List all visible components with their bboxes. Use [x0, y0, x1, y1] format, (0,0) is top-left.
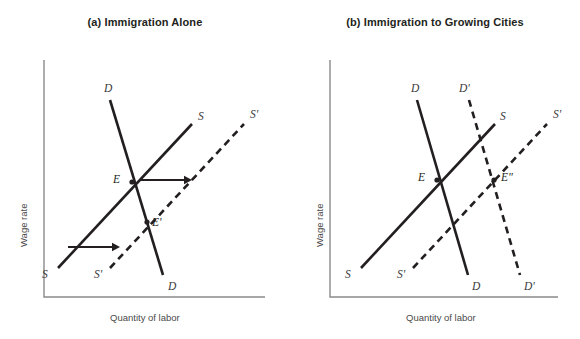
panel-b-x-axis-label: Quantity of labor — [406, 312, 476, 323]
panel-immigration-alone: (a) Immigration Alone DDSSS'S'EE' Wage r… — [0, 0, 290, 339]
equilibrium-dot-E — [434, 177, 439, 182]
panel-b-chart: DDD'D'SSS'S'EE" — [290, 0, 580, 339]
economics-figure: (a) Immigration Alone DDSSS'S'EE' Wage r… — [0, 0, 580, 339]
panel-immigration-growing-cities: (b) Immigration to Growing Cities DDD'D'… — [290, 0, 580, 339]
equilibrium-label-E: E — [417, 171, 425, 183]
curve-label-S-end: S — [500, 110, 506, 122]
curve-Sprime — [110, 124, 244, 268]
panel-a-x-axis-label: Quantity of labor — [110, 312, 180, 323]
curve-label-Sprime-start: S' — [94, 268, 103, 280]
curve-label-S-start: S — [345, 268, 351, 280]
equilibrium-label-E: E — [112, 173, 120, 185]
curve-label-Dprime-end: D' — [523, 280, 535, 292]
equilibrium-dot-Edprime — [491, 177, 496, 182]
curve-D — [417, 100, 468, 275]
panel-b-y-axis-label: Wage rate — [314, 203, 325, 246]
supply-shift-arrow-upper-head — [184, 176, 192, 184]
curve-label-D-end: D — [167, 280, 177, 292]
curve-Sprime — [413, 124, 547, 268]
curve-label-Dprime-start: D' — [458, 82, 470, 94]
curve-D — [110, 100, 163, 275]
equilibrium-dot-Eprime — [144, 219, 149, 224]
curve-label-Sprime-end: S' — [553, 108, 562, 120]
panel-a-chart: DDSSS'S'EE' — [0, 0, 290, 339]
curve-label-D-start: D — [410, 82, 420, 94]
curve-label-S-end: S — [198, 110, 204, 122]
axis-frame — [44, 60, 265, 297]
curve-label-S-start: S — [42, 268, 48, 280]
panel-a-y-axis-label: Wage rate — [18, 203, 29, 246]
equilibrium-label-Eprime: E' — [151, 216, 162, 228]
curve-label-Sprime-start: S' — [397, 268, 406, 280]
equilibrium-label-Edprime: E" — [500, 171, 513, 183]
curve-label-D-start: D — [103, 82, 113, 94]
supply-shift-arrow-lower-head — [112, 243, 120, 251]
equilibrium-dot-E — [129, 179, 134, 184]
curve-S — [361, 124, 495, 268]
curve-label-Sprime-end: S' — [250, 108, 259, 120]
curve-label-D-end: D — [471, 280, 481, 292]
